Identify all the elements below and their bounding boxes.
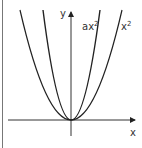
- label-exponent: 2: [127, 20, 131, 28]
- parabola-diagram: y x ax2 x2: [0, 0, 142, 148]
- label-exponent: 2: [94, 20, 98, 28]
- curve-label-x-squared: x2: [121, 21, 131, 32]
- y-axis-label: y: [60, 9, 66, 19]
- label-base: ax: [82, 21, 94, 32]
- x-axis-label: x: [130, 128, 136, 138]
- curve-label-a-x-squared: ax2: [82, 21, 99, 32]
